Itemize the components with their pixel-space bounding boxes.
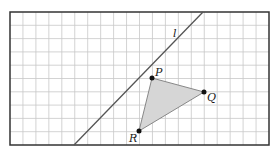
point-q: [202, 90, 207, 95]
triangle-pqr: [139, 78, 204, 131]
line-l-label: l: [173, 27, 177, 40]
point-p-label: P: [154, 66, 163, 79]
point-p: [150, 76, 155, 81]
diagram-canvas: l P Q R: [0, 0, 271, 147]
point-q-label: Q: [207, 91, 216, 104]
grid: [10, 12, 269, 145]
point-r-label: R: [128, 132, 137, 145]
